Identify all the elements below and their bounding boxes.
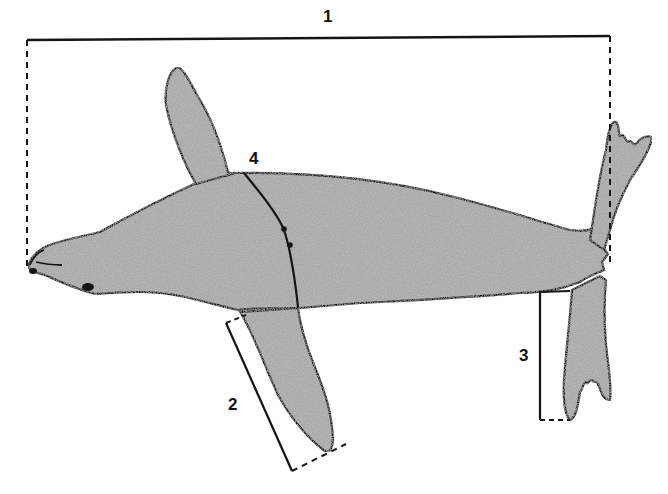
lower-hind-flipper (564, 276, 611, 420)
upper-fore-flipper (166, 67, 232, 184)
sea-lion-measurement-diagram: 1 2 3 4 (0, 0, 668, 494)
measurement-label-2: 2 (228, 396, 237, 413)
sea-lion-body (28, 67, 652, 452)
fore-flipper-dashed-bottom (292, 444, 346, 471)
eye (82, 283, 94, 291)
hind-flipper-top-line (540, 291, 570, 292)
measurement-label-1: 1 (323, 8, 332, 25)
lower-fore-flipper (240, 308, 333, 452)
nostril (29, 268, 37, 274)
girth-knot (281, 226, 287, 232)
upper-hind-flipper (590, 122, 652, 250)
measurement-label-4: 4 (249, 150, 258, 167)
measurement-label-3: 3 (519, 347, 528, 364)
diagram-canvas (0, 0, 668, 494)
length-bracket-line (27, 36, 610, 40)
girth-knot (287, 242, 293, 248)
body-outline (28, 173, 608, 310)
